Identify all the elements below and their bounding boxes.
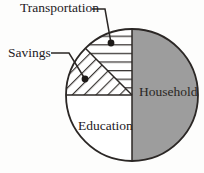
slice-label-transportation: Transportation (20, 1, 99, 15)
slice-label-household: Household (139, 85, 198, 99)
savings-leader-dot (82, 76, 89, 83)
transportation-leader-dot (108, 40, 115, 47)
slice-label-education: Education (78, 119, 133, 133)
slice-label-savings: Savings (8, 46, 51, 60)
pie-chart-figure: Transportation Savings Household Educati… (0, 0, 204, 173)
